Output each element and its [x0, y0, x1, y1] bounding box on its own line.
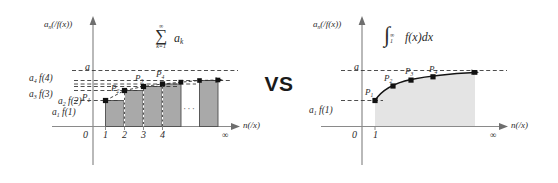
series-asymptote-label: a: [85, 62, 90, 72]
integral-title-body: f(x)dx: [405, 31, 433, 43]
integral-diagram-panel: an(/f(x)) n(/x) ∫∞1 f(x)dx a a1 f(1) P1 …: [279, 0, 558, 183]
series-y-label-a3: a3 f(3): [29, 90, 53, 101]
series-diagram-panel: an(/f(x)) n(/x) ∞ ∑ k=1 ak a a4 f(4) a3 …: [0, 0, 279, 183]
series-origin-label: 0: [83, 130, 88, 140]
series-point-label-p3: P3: [135, 74, 143, 84]
integral-point-label-p3: P3: [405, 67, 413, 77]
series-title-sigma: ∞ ∑ k=1: [155, 23, 167, 49]
integral-y-label-a1: a1 f(1): [309, 106, 333, 117]
series-x-axis-label: n(/x): [243, 121, 260, 130]
integral-title-symbol: ∫∞1: [384, 26, 394, 45]
integral-point-label-p4: P4: [429, 65, 437, 75]
series-bars: [106, 81, 219, 127]
series-y-axis-label: an(/f(x)): [44, 20, 72, 30]
integral-asymptote-label: a: [354, 62, 359, 72]
integral-origin-label: 0: [352, 130, 357, 140]
integral-x-axis-label: n(/x): [511, 121, 528, 130]
series-y-label-a1: a1 f(1): [52, 108, 76, 119]
series-x-tick-4: 4: [160, 130, 165, 140]
integral-point-label-p2: P2: [384, 74, 392, 84]
series-y-label-a2: a2 f(2): [58, 97, 82, 108]
series-x-infinity-label: ∞: [222, 131, 228, 140]
series-point-label-p1: P1: [82, 93, 90, 103]
series-point-label-p2: P2: [111, 84, 119, 94]
figure-root: an(/f(x)) n(/x) ∞ ∑ k=1 ak a a4 f(4) a3 …: [0, 0, 558, 183]
series-x-tick-2: 2: [122, 130, 127, 140]
series-y-label-a4: a4 f(4): [29, 74, 53, 85]
series-x-tick-1: 1: [103, 130, 108, 140]
series-point-label-p4: P4: [156, 70, 164, 80]
integral-y-axis-label: an(/f(x)): [313, 20, 341, 30]
series-title-body: ak: [174, 32, 183, 46]
series-ellipsis: ···: [183, 104, 196, 114]
series-x-tick-3: 3: [141, 130, 146, 140]
integral-point-label-p1: P1: [365, 88, 373, 98]
integral-x-infinity-label: ∞: [490, 131, 496, 140]
integral-x-tick-1: 1: [373, 130, 378, 140]
